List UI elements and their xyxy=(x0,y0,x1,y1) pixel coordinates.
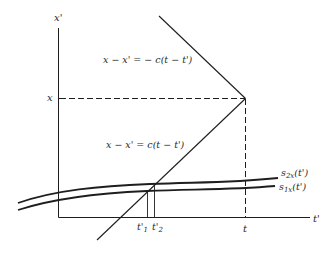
lower-line-equation: x − x' = c(t − t') xyxy=(106,139,185,150)
upper-line-equation: x − x' = − c(t − t') xyxy=(103,54,193,65)
curve-s2x-label: s2x(t') xyxy=(281,167,308,180)
forward-line-lower xyxy=(97,99,246,241)
trajectory-curves xyxy=(18,178,278,210)
horizontal-axis-label: t' xyxy=(313,213,320,224)
x-tick-label: x xyxy=(47,92,53,103)
dashed-guides xyxy=(60,99,246,218)
vertical-axis-label: x' xyxy=(54,12,62,23)
light-cone-lines xyxy=(97,16,246,240)
t2-prime-label: t'2 xyxy=(152,221,163,234)
curve-s1x-label: s1x(t') xyxy=(279,181,306,194)
light-cone-diagram: x' t' x t x − x' = − c(t − t') x − x' = … xyxy=(0,0,330,257)
t-tick-label: t xyxy=(243,223,248,234)
curve-s1x xyxy=(18,186,275,210)
t1-prime-label: t'1 xyxy=(137,221,148,234)
